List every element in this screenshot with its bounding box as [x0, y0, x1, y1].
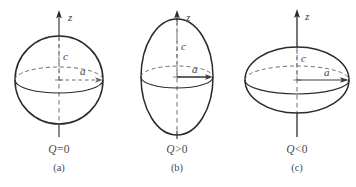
diagram-prolate-spheroid: z c a — [118, 0, 236, 140]
q-symbol: Q — [286, 143, 295, 155]
semiaxis-a-arrowhead-icon — [95, 77, 103, 82]
q-relation: = — [57, 143, 64, 155]
a-label: a — [324, 66, 330, 78]
q-condition-label-b: Q>0 — [118, 143, 236, 155]
q-symbol: Q — [166, 143, 175, 155]
q-value: 0 — [64, 143, 70, 155]
quadrupole-shapes-figure: z c a Q=0 (a) z c a — [0, 0, 356, 187]
c-label: c — [63, 50, 68, 62]
a-label: a — [192, 63, 198, 75]
diagram-sphere: z c a — [0, 0, 118, 140]
q-value: 0 — [182, 143, 188, 155]
panel-a-sphere: z c a Q=0 (a) — [0, 0, 118, 187]
q-condition-label-a: Q=0 — [0, 143, 118, 155]
q-relation: > — [175, 143, 182, 155]
q-value: 0 — [302, 143, 308, 155]
c-label: c — [301, 52, 306, 64]
z-axis-label: z — [67, 11, 73, 23]
panel-b-prolate: z c a Q>0 (b) — [118, 0, 236, 187]
diagram-oblate-spheroid: z c a — [238, 0, 356, 140]
panel-letter-b: (b) — [118, 162, 236, 173]
c-label: c — [181, 40, 186, 52]
z-axis-label: z — [185, 11, 191, 23]
panel-letter-a: (a) — [0, 162, 118, 173]
a-label: a — [80, 65, 86, 77]
z-axis-label: z — [304, 10, 310, 22]
panel-c-oblate: z c a Q<0 (c) — [238, 0, 356, 187]
q-relation: < — [295, 143, 302, 155]
q-symbol: Q — [48, 143, 57, 155]
panel-letter-c: (c) — [238, 162, 356, 173]
q-condition-label-c: Q<0 — [238, 143, 356, 155]
